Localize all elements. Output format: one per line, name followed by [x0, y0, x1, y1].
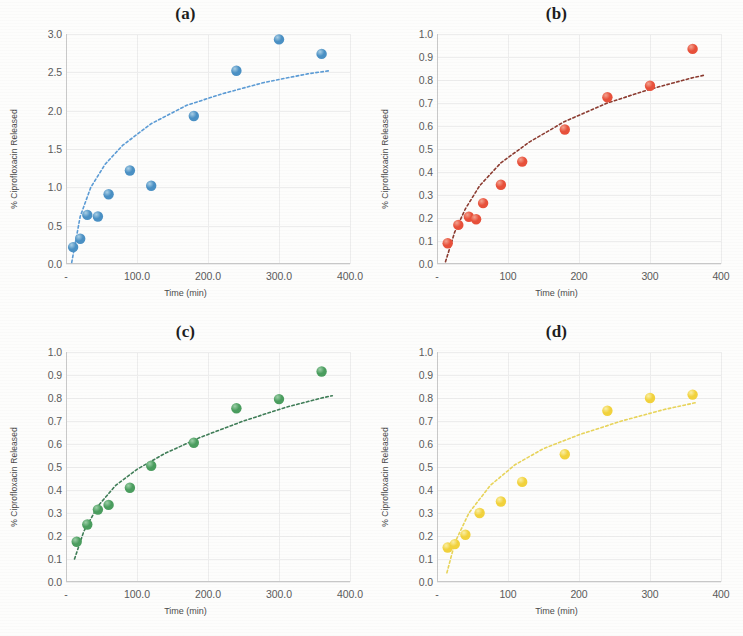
data-point-marker	[93, 211, 103, 221]
panel-label-d: (d)	[371, 322, 742, 342]
y-tick-label: 0.3	[22, 507, 62, 519]
y-tick-label: 1.0	[22, 181, 62, 193]
gridline-vertical	[350, 352, 351, 582]
y-tick-label: 0.5	[22, 461, 62, 473]
x-tick-label: 400.0	[337, 270, 363, 282]
gridline-horizontal	[66, 264, 350, 265]
x-tick-label: 200.0	[195, 270, 221, 282]
data-point-marker	[450, 539, 460, 549]
x-tick-label: 300.0	[266, 588, 292, 600]
data-point-marker	[125, 165, 135, 175]
y-axis-ticks-d: 0.00.10.20.30.40.50.60.70.80.91.0	[389, 344, 433, 584]
data-point-marker	[687, 44, 697, 54]
data-point-marker	[474, 508, 484, 518]
x-tick-label: 200.0	[195, 588, 221, 600]
y-tick-label: 0.1	[393, 235, 433, 247]
figure-panel-grid: (a) % Ciprofloxacin Released 0.00.51.01.…	[0, 0, 743, 636]
gridline-horizontal	[437, 582, 721, 583]
trendline	[446, 75, 704, 261]
data-point-marker	[602, 92, 612, 102]
y-tick-label: 0.9	[393, 369, 433, 381]
x-axis-title-a: Time (min)	[0, 288, 371, 298]
y-tick-label: 0.0	[393, 576, 433, 588]
data-point-marker	[443, 238, 453, 248]
y-tick-label: 0.9	[393, 51, 433, 63]
gridline-vertical	[721, 34, 722, 264]
data-point-marker	[82, 210, 92, 220]
x-tick-label: -	[64, 270, 67, 282]
y-tick-label: 0.0	[393, 258, 433, 270]
data-point-marker	[189, 438, 199, 448]
y-tick-label: 0.9	[22, 369, 62, 381]
y-tick-label: 0.4	[393, 484, 433, 496]
data-point-marker	[496, 180, 506, 190]
x-tick-label: 200	[570, 270, 587, 282]
x-tick-label: 100	[499, 270, 516, 282]
data-point-marker	[93, 504, 103, 514]
y-axis-ticks-c: 0.00.10.20.30.40.50.60.70.80.91.0	[18, 344, 62, 584]
data-point-marker	[496, 496, 506, 506]
y-tick-label: 1.0	[393, 28, 433, 40]
y-tick-label: 1.5	[22, 143, 62, 155]
gridline-horizontal	[66, 582, 350, 583]
y-tick-label: 0.4	[393, 166, 433, 178]
plot-area-c: % Ciprofloxacin Released 0.00.10.20.30.4…	[0, 344, 371, 636]
chart-panel-a: (a) % Ciprofloxacin Released 0.00.51.01.…	[0, 0, 371, 318]
data-point-marker	[146, 461, 156, 471]
x-tick-label: 100.0	[124, 588, 150, 600]
x-tick-label: 300	[641, 588, 658, 600]
y-tick-label: 2.5	[22, 66, 62, 78]
y-tick-label: 3.0	[22, 28, 62, 40]
x-axis-title-b: Time (min)	[371, 288, 742, 298]
data-point-marker	[103, 189, 113, 199]
y-tick-label: 0.8	[393, 74, 433, 86]
data-point-marker	[274, 394, 284, 404]
data-point-marker	[231, 403, 241, 413]
data-point-marker	[645, 81, 655, 91]
y-tick-label: 0.2	[393, 212, 433, 224]
x-axis-ticks-b: -100200300400	[371, 270, 742, 286]
data-point-marker	[471, 214, 481, 224]
data-point-marker	[602, 406, 612, 416]
y-tick-label: 2.0	[22, 105, 62, 117]
x-axis-ticks-d: -100200300400	[371, 588, 742, 604]
x-tick-label: -	[435, 270, 438, 282]
y-tick-label: 0.7	[393, 97, 433, 109]
y-tick-label: 0.6	[22, 438, 62, 450]
series-markers-c	[66, 352, 350, 582]
data-point-marker	[189, 111, 199, 121]
y-tick-label: 0.3	[393, 507, 433, 519]
x-axis-title-d: Time (min)	[371, 606, 742, 616]
x-tick-label: 300.0	[266, 270, 292, 282]
data-point-marker	[75, 234, 85, 244]
plot-area-d: % Ciprofloxacin Released 0.00.10.20.30.4…	[371, 344, 742, 636]
y-tick-label: 0.2	[22, 530, 62, 542]
data-point-marker	[146, 181, 156, 191]
series-markers-a	[66, 34, 350, 264]
data-point-marker	[460, 530, 470, 540]
plot-area-b: % Ciprofloxacin Released 0.00.10.20.30.4…	[371, 26, 742, 318]
y-tick-label: 0.0	[22, 258, 62, 270]
x-tick-label: 100.0	[124, 270, 150, 282]
y-tick-label: 0.1	[393, 553, 433, 565]
y-tick-label: 0.7	[22, 415, 62, 427]
series-markers-b	[437, 34, 721, 264]
panel-label-c: (c)	[0, 322, 371, 342]
x-tick-label: 400.0	[337, 588, 363, 600]
y-axis-ticks-b: 0.00.10.20.30.40.50.60.70.80.91.0	[389, 26, 433, 266]
chart-panel-b: (b) % Ciprofloxacin Released 0.00.10.20.…	[371, 0, 742, 318]
plot-area-a: % Ciprofloxacin Released 0.00.51.01.52.0…	[0, 26, 371, 318]
data-point-marker	[72, 537, 82, 547]
y-tick-label: 0.5	[393, 461, 433, 473]
chart-panel-c: (c) % Ciprofloxacin Released 0.00.10.20.…	[0, 318, 371, 636]
y-tick-label: 0.5	[393, 143, 433, 155]
trendline	[447, 403, 696, 573]
x-axis-ticks-c: -100.0200.0300.0400.0	[0, 588, 371, 604]
x-tick-label: 300	[641, 270, 658, 282]
y-tick-label: 0.4	[22, 484, 62, 496]
axes-c	[66, 352, 350, 582]
x-tick-label: -	[435, 588, 438, 600]
y-tick-label: 1.0	[393, 346, 433, 358]
y-tick-label: 0.1	[22, 553, 62, 565]
x-axis-ticks-a: -100.0200.0300.0400.0	[0, 270, 371, 286]
